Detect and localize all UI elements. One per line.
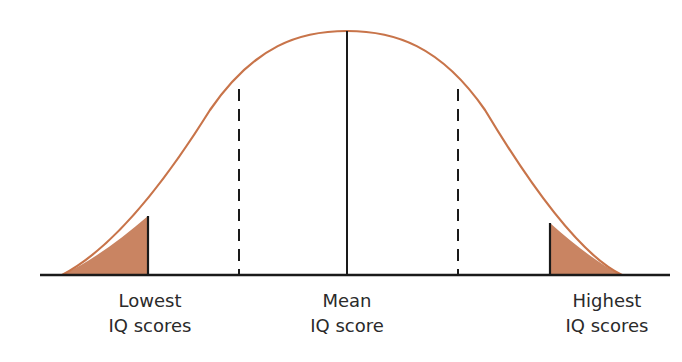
highest-label: Highest IQ scores [532, 288, 682, 338]
mean-label: Mean IQ score [272, 288, 422, 338]
lowest-label: Lowest IQ scores [75, 288, 225, 338]
